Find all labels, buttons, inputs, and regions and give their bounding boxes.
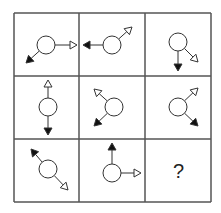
cell-r2-c1 xyxy=(103,143,141,182)
arrow-shaft xyxy=(185,113,193,121)
filled-arrowhead-icon xyxy=(108,143,116,150)
open-arrowhead-icon xyxy=(134,169,141,177)
arrow-shaft xyxy=(31,51,39,58)
cell-r2-c0 xyxy=(31,149,68,190)
cell-r1-c1 xyxy=(94,89,123,126)
filled-arrowhead-icon xyxy=(31,149,39,157)
circle-icon xyxy=(37,36,55,54)
circle-icon xyxy=(169,98,187,116)
open-arrowhead-icon xyxy=(44,80,52,87)
circle-icon xyxy=(103,36,121,54)
arrow-shaft xyxy=(119,32,127,39)
cell-r1-c0 xyxy=(39,80,57,135)
puzzle-grid xyxy=(0,0,221,213)
missing-cell-question-mark: ? xyxy=(173,160,184,183)
arrow-shaft xyxy=(184,48,193,57)
cell-r0-c0 xyxy=(26,36,77,63)
circle-icon xyxy=(39,160,57,178)
circle-icon xyxy=(39,98,57,116)
cell-r0-c1 xyxy=(83,27,132,54)
circle-icon xyxy=(103,164,121,182)
arrow-shaft xyxy=(99,113,107,121)
filled-arrowhead-icon xyxy=(83,41,90,49)
arrow-shaft xyxy=(185,93,193,101)
arrow-shaft xyxy=(99,94,107,101)
filled-arrowhead-icon xyxy=(174,64,182,71)
cell-r1-c2 xyxy=(169,88,198,126)
circle-icon xyxy=(169,33,187,51)
arrow-shaft xyxy=(54,176,63,185)
open-arrowhead-icon xyxy=(70,41,77,49)
arrow-shaft xyxy=(36,154,43,162)
circle-icon xyxy=(105,98,123,116)
filled-arrowhead-icon xyxy=(44,128,52,135)
cell-r0-c2 xyxy=(169,33,198,71)
